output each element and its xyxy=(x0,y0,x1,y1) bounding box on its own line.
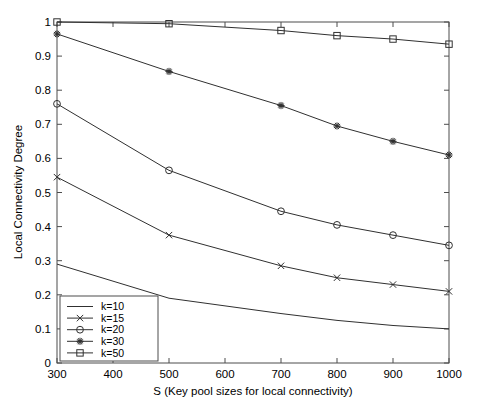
y-tick-label: 0.9 xyxy=(35,50,51,62)
local-connectivity-degree-line-chart: 00.10.20.30.40.50.60.70.80.91 3004005006… xyxy=(0,0,486,401)
y-tick-label: 0.5 xyxy=(35,187,51,199)
y-tick-label: 0.2 xyxy=(35,289,51,301)
y-tick-label: 0.4 xyxy=(35,221,52,233)
x-tick-label: 900 xyxy=(383,368,402,380)
x-tick-label: 300 xyxy=(47,368,66,380)
legend-label: k=10 xyxy=(101,300,124,312)
x-tick-label: 600 xyxy=(215,368,234,380)
y-tick-label: 0.7 xyxy=(35,118,51,130)
x-tick-label: 500 xyxy=(159,368,178,380)
y-axis-title: Local Connectivity Degree xyxy=(12,125,24,259)
x-tick-label: 800 xyxy=(327,368,346,380)
x-axis-title: S (Key pool sizes for local connectivity… xyxy=(153,385,353,397)
y-tick-label: 0.8 xyxy=(35,84,51,96)
y-tick-label: 0.1 xyxy=(35,323,51,335)
y-tick-label: 0.3 xyxy=(35,255,51,267)
legend-label: k=50 xyxy=(101,347,124,359)
y-tick-label: 1 xyxy=(45,16,51,28)
legend-label: k=20 xyxy=(101,323,124,335)
x-tick-label: 700 xyxy=(271,368,290,380)
chart-legend: k=10k=15k=20k=30k=50 xyxy=(60,296,158,361)
y-tick-label: 0.6 xyxy=(35,152,51,164)
x-tick-label: 1000 xyxy=(436,368,462,380)
x-tick-label: 400 xyxy=(103,368,122,380)
legend-label: k=15 xyxy=(101,312,124,324)
legend-label: k=30 xyxy=(101,335,124,347)
chart-figure: 00.10.20.30.40.50.60.70.80.91 3004005006… xyxy=(0,0,486,401)
